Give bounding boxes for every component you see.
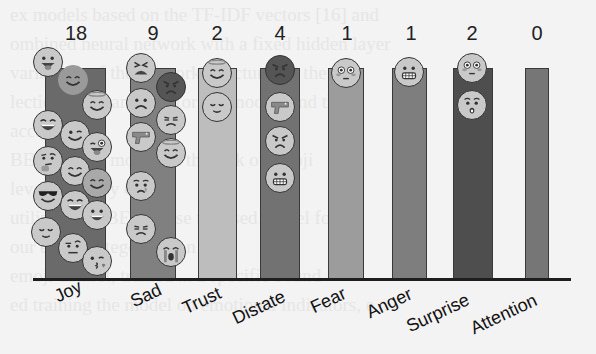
count-label-fear: 1	[327, 22, 367, 45]
emoji-angry-icon	[265, 126, 295, 156]
emoji-smiling-halo-icon	[156, 138, 186, 168]
emoji-flushed-icon	[331, 58, 361, 88]
emoji-grimacing-icon	[394, 57, 424, 87]
x-label-sad: Sad	[127, 279, 165, 312]
emoji-pensive-icon	[126, 214, 156, 244]
x-label-attention: Attention	[467, 290, 540, 339]
emoji-anxious-icon	[126, 171, 156, 201]
x-label-surprise: Surprise	[403, 290, 473, 337]
count-label-distate: 4	[260, 22, 300, 45]
emoji-angry-red-icon	[265, 55, 295, 85]
emoji-smiling-halo-icon	[202, 58, 232, 88]
emoji-tired-face-icon	[126, 53, 156, 83]
emoji-thinking-icon	[33, 146, 63, 176]
count-label-sad: 9	[133, 22, 173, 45]
emoji-angry-red-icon	[156, 72, 186, 102]
emoji-relieved-icon	[202, 92, 232, 122]
x-axis-line	[33, 278, 571, 281]
count-label-joy: 18	[56, 22, 96, 45]
bar-attention	[525, 68, 549, 279]
count-label-attention: 0	[517, 22, 557, 45]
emoji-crying-icon	[156, 237, 186, 267]
emoji-pistol-icon	[126, 122, 156, 152]
x-label-fear: Fear	[307, 283, 349, 318]
x-label-distate: Distate	[229, 286, 289, 329]
emoji-pistol-icon	[265, 92, 295, 122]
emoji-relieved-icon	[31, 217, 61, 247]
count-label-surprise: 2	[452, 22, 492, 45]
x-label-trust: Trust	[179, 283, 224, 319]
emoji-sunglasses-icon	[33, 181, 63, 211]
bar-anger	[392, 68, 427, 279]
emoji-grimacing-icon	[265, 163, 295, 193]
emoji-flushed-icon	[457, 53, 487, 83]
emoji-smiling-halo-icon	[82, 90, 112, 120]
emoji-frowning-icon	[126, 88, 156, 118]
emoji-laughing-icon	[33, 110, 63, 140]
bar-fear	[328, 68, 364, 279]
emoji-kissing-wink-icon	[82, 246, 112, 276]
count-label-anger: 1	[391, 22, 431, 45]
emoji-grinning-icon	[82, 200, 112, 230]
emoji-astonished-icon	[457, 90, 487, 120]
count-label-trust: 2	[197, 22, 237, 45]
emoji-emotion-bar-chart: 18 9 2 4 1 1 2 0	[0, 0, 596, 354]
emoji-disappointed-icon	[156, 105, 186, 135]
